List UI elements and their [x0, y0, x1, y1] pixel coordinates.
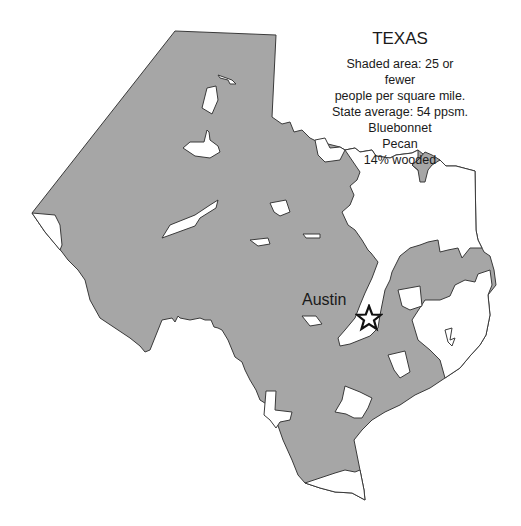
- legend-line-tree: Pecan: [330, 136, 470, 152]
- legend-line-flower: Bluebonnet: [330, 120, 470, 136]
- legend: TEXAS Shaded area: 25 or fewer people pe…: [330, 28, 470, 168]
- legend-line-wooded: 14% wooded: [330, 152, 470, 168]
- star-icon: [355, 304, 383, 332]
- capital-label: Austin: [302, 291, 346, 309]
- legend-line-average: State average: 54 ppsm.: [330, 104, 470, 120]
- state-title: TEXAS: [330, 28, 470, 50]
- island-central-3: [303, 234, 320, 238]
- legend-line-density: people per square mile.: [330, 88, 470, 104]
- legend-line-shaded: Shaded area: 25 or fewer: [330, 56, 470, 88]
